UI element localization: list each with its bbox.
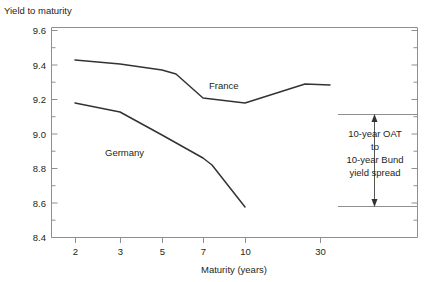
spread-arrow-head-down xyxy=(372,199,378,207)
chart-title: Yield to maturity xyxy=(4,5,72,16)
series-germany xyxy=(75,103,245,207)
x-tick-label: 2 xyxy=(73,246,78,257)
y-axis-tick-labels: 9.6 9.4 9.2 9.0 8.8 8.6 8.4 xyxy=(33,25,46,243)
spread-arrow-head-up xyxy=(372,114,378,122)
x-axis-title: Maturity (years) xyxy=(201,264,267,275)
y-tick-label: 9.2 xyxy=(33,94,46,105)
x-axis-tick-labels: 2 3 5 7 10 30 xyxy=(73,246,326,257)
y-tick-label: 8.8 xyxy=(33,163,46,174)
y-tick-label: 9.0 xyxy=(33,129,46,140)
x-tick-label: 30 xyxy=(315,246,326,257)
germany-line xyxy=(75,103,245,207)
series-label-germany: Germany xyxy=(105,147,144,158)
series-france xyxy=(75,60,330,103)
x-tick-label: 7 xyxy=(201,246,206,257)
spread-text-line-2: to xyxy=(371,141,379,152)
spread-text-line-1: 10-year OAT xyxy=(348,128,402,139)
y-tick-label: 8.6 xyxy=(33,198,46,209)
x-axis-ticks xyxy=(76,238,321,244)
y-tick-label: 9.6 xyxy=(33,25,46,36)
spread-text-line-3: 10-year Bund xyxy=(346,154,403,165)
y-tick-label: 9.4 xyxy=(33,60,46,71)
spread-text-line-4: yield spread xyxy=(349,167,400,178)
y-tick-label: 8.4 xyxy=(33,232,46,243)
x-tick-label: 10 xyxy=(240,246,251,257)
france-line xyxy=(75,60,330,103)
yield-curve-chart: 9.6 9.4 9.2 9.0 8.8 8.6 8.4 2 3 5 7 10 3… xyxy=(0,0,439,282)
y-axis-major-ticks xyxy=(52,31,58,238)
x-tick-label: 5 xyxy=(160,246,165,257)
series-label-france: France xyxy=(209,80,239,91)
chart-figure: 9.6 9.4 9.2 9.0 8.8 8.6 8.4 2 3 5 7 10 3… xyxy=(0,0,439,282)
x-tick-label: 3 xyxy=(118,246,123,257)
